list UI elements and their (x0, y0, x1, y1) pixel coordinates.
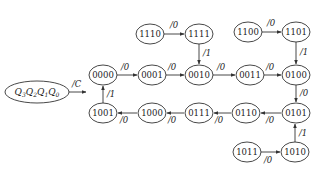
state-0001: 0001 (138, 65, 166, 85)
svg-text:1001: 1001 (92, 108, 114, 118)
svg-text:0110: 0110 (235, 108, 257, 118)
edge-label: /0 (167, 115, 177, 125)
svg-text:1010: 1010 (284, 147, 306, 157)
state-1001: 1001 (89, 103, 117, 123)
state-0010: 0010 (185, 65, 213, 85)
state-1101: 1101 (282, 22, 310, 42)
edge-label: /0 (120, 62, 130, 72)
edge-label: /1 (106, 89, 115, 99)
state-1111: 1111 (185, 24, 213, 44)
svg-text:0001: 0001 (141, 70, 163, 80)
svg-text:1101: 1101 (285, 27, 307, 37)
states: 0000 0001 0010 0011 0100 0101 0110 0111 (89, 22, 310, 162)
edge-label: /0 (299, 88, 309, 98)
state-0110: 0110 (232, 103, 260, 123)
edge-label: /0 (119, 115, 129, 125)
state-1100: 1100 (234, 22, 262, 42)
edge-label: /0 (266, 18, 276, 28)
state-0000: 0000 (89, 65, 117, 85)
svg-text:0011: 0011 (239, 70, 261, 80)
state-0111: 0111 (185, 103, 213, 123)
edge-label: /1 (299, 47, 308, 57)
edge-label: /0 (263, 155, 273, 165)
svg-text:0101: 0101 (285, 108, 307, 118)
legend-output-label: /C (71, 79, 82, 89)
edge-label: /1 (298, 128, 307, 138)
svg-text:0100: 0100 (285, 70, 307, 80)
edge-label: /0 (167, 62, 177, 72)
state-0101: 0101 (282, 103, 310, 123)
state-0011: 0011 (236, 65, 264, 85)
svg-text:0000: 0000 (92, 70, 114, 80)
edge-label: /0 (216, 62, 226, 72)
edge-label: /0 (265, 62, 275, 72)
svg-text:0111: 0111 (188, 108, 210, 118)
svg-text:0010: 0010 (188, 70, 210, 80)
svg-text:1111: 1111 (188, 29, 210, 39)
legend-label: Q3Q2Q1Q0 (15, 87, 60, 98)
svg-text:1100: 1100 (237, 27, 259, 37)
state-1000: 1000 (138, 103, 166, 123)
edge-label: /0 (169, 20, 179, 30)
state-diagram: Q3Q2Q1Q0 /C /0 /0 /0 /0 /0 /0 /0 /0 /0 /… (0, 0, 328, 175)
state-0100: 0100 (282, 65, 310, 85)
edge-label: /0 (265, 115, 275, 125)
legend: Q3Q2Q1Q0 /C (5, 79, 86, 103)
state-1110: 1110 (136, 24, 164, 44)
edge-label: /0 (214, 115, 224, 125)
state-1011: 1011 (233, 142, 261, 162)
svg-text:1000: 1000 (141, 108, 163, 118)
state-1010: 1010 (281, 142, 309, 162)
edge-label: /1 (202, 48, 211, 58)
svg-text:1110: 1110 (139, 29, 161, 39)
svg-text:1011: 1011 (236, 147, 258, 157)
